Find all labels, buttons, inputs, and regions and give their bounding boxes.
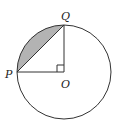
label-q: Q <box>61 10 70 23</box>
right-angle-marker <box>57 65 64 72</box>
label-p: P <box>4 68 13 81</box>
diagram: Q P O <box>0 0 121 128</box>
circle-diagram: Q P O <box>0 0 121 128</box>
label-o: O <box>61 78 70 91</box>
